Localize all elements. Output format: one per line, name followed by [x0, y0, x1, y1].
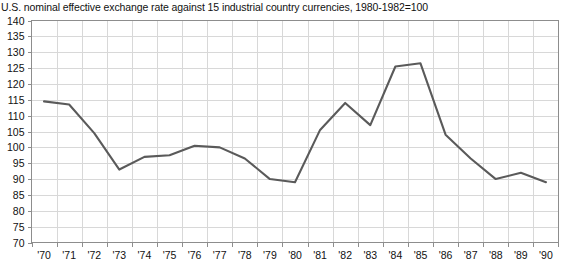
- x-tick-label: '77: [213, 249, 227, 261]
- horizontal-gridlines: [32, 37, 559, 228]
- x-tick-label: '72: [87, 249, 101, 261]
- x-tick-label: '80: [288, 249, 302, 261]
- x-tick-label: '76: [188, 249, 202, 261]
- y-tick-label: 130: [7, 46, 25, 58]
- x-axis-tick-labels: '70'71'72'73'74'75'76'77'78'79'80'81'82'…: [37, 249, 553, 261]
- vertical-gridlines: [58, 21, 534, 243]
- y-tick-label: 125: [7, 62, 25, 74]
- plot-area: 140135130125120115110105100959085807570 …: [0, 0, 570, 266]
- y-tick-label: 100: [7, 141, 25, 153]
- x-tick-label: '82: [338, 249, 352, 261]
- x-tick-label: '70: [37, 249, 51, 261]
- y-tick-label: 80: [13, 205, 25, 217]
- x-tick-label: '84: [389, 249, 403, 261]
- y-tick-label: 120: [7, 78, 25, 90]
- x-tick-label: '87: [464, 249, 478, 261]
- x-tick-label: '85: [414, 249, 428, 261]
- x-tick-label: '79: [263, 249, 277, 261]
- exchange-rate-line-chart: U.S. nominal effective exchange rate aga…: [0, 0, 570, 266]
- y-tick-label: 90: [13, 173, 25, 185]
- x-tick-label: '75: [163, 249, 177, 261]
- y-tick-label: 140: [7, 15, 25, 27]
- y-tick-label: 75: [13, 221, 25, 233]
- x-tick-label: '81: [313, 249, 327, 261]
- x-tick-label: '88: [489, 249, 503, 261]
- x-tick-label: '73: [112, 249, 126, 261]
- y-tick-label: 105: [7, 126, 25, 138]
- y-tick-label: 115: [8, 94, 25, 106]
- plot-border: [32, 21, 559, 243]
- x-tick-label: '74: [138, 249, 152, 261]
- x-tick-label: '89: [514, 249, 528, 261]
- data-series-line: [44, 63, 546, 182]
- x-tick-label: '78: [238, 249, 252, 261]
- y-tick-label: 70: [13, 237, 25, 249]
- x-tick-label: '71: [62, 249, 76, 261]
- x-tick-label: '83: [363, 249, 377, 261]
- x-tick-label: '86: [439, 249, 453, 261]
- y-tick-label: 85: [13, 189, 25, 201]
- y-tick-label: 135: [7, 30, 25, 42]
- y-axis-tick-labels: 140135130125120115110105100959085807570: [7, 15, 25, 249]
- y-tick-label: 95: [13, 157, 25, 169]
- x-tick-label: '90: [539, 249, 553, 261]
- y-tick-label: 110: [8, 110, 25, 122]
